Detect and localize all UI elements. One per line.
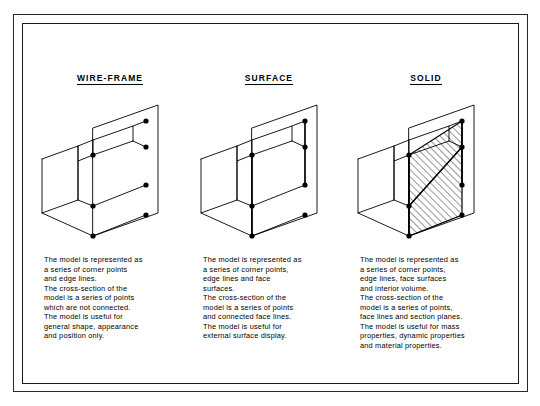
figure-caption-wire-frame: WIRE-FRAME <box>30 73 190 83</box>
block-notch-end <box>237 146 252 161</box>
block-bottom-edge <box>93 185 146 206</box>
section-face-lines <box>252 121 305 236</box>
figure-caption-label: SOLID <box>410 73 441 85</box>
block-left-end <box>201 146 237 213</box>
section-point <box>459 144 464 149</box>
block-left-face <box>201 159 252 236</box>
wire-frame-svg <box>30 85 190 250</box>
section-point <box>459 212 464 217</box>
block-top-slab <box>78 126 133 146</box>
figure-caption-surface: SURFACE <box>189 73 349 83</box>
section-point <box>302 182 307 187</box>
column-surface: SURFACE <box>189 23 349 384</box>
column-wire-frame: WIRE-FRAME <box>30 23 190 384</box>
block-notch-end <box>78 146 93 161</box>
section-point <box>459 182 464 187</box>
figure-solid <box>346 85 506 250</box>
section-point <box>90 233 95 238</box>
section-point <box>249 152 254 157</box>
drawing-content: WIRE-FRAME <box>22 23 519 384</box>
block-base-edge <box>93 215 146 236</box>
solid-svg <box>346 85 506 250</box>
section-point <box>406 203 411 208</box>
section-point <box>406 152 411 157</box>
figure-caption-label: SURFACE <box>245 73 293 85</box>
cutting-plane <box>252 105 317 236</box>
block-notch-top <box>93 141 133 155</box>
figure-description-surface: The model is represented as a series of … <box>203 255 353 341</box>
section-point <box>406 233 411 238</box>
section-point <box>143 212 148 217</box>
block-notch-top <box>252 141 292 155</box>
block-top-slab <box>237 126 292 146</box>
block-left-face <box>42 159 93 236</box>
block-left-end <box>358 146 394 213</box>
block-left-face <box>358 159 409 236</box>
cutting-plane <box>93 105 158 236</box>
section-point <box>143 182 148 187</box>
figure-caption-solid: SOLID <box>346 73 506 83</box>
section-point <box>302 212 307 217</box>
section-point <box>459 118 464 123</box>
drawing-sheet: WIRE-FRAME <box>0 0 540 406</box>
section-point <box>90 203 95 208</box>
figure-surface <box>189 85 349 250</box>
section-point <box>143 144 148 149</box>
surface-svg <box>189 85 349 250</box>
figure-caption-label: WIRE-FRAME <box>77 73 143 85</box>
block-notch-end <box>394 146 409 161</box>
section-points-group <box>249 118 307 238</box>
figure-description-wire-frame: The model is represented as a series of … <box>44 255 194 341</box>
block-base-edge <box>252 215 305 236</box>
section-points-group <box>90 118 148 238</box>
comparison-columns: WIRE-FRAME <box>22 23 519 384</box>
section-point <box>143 118 148 123</box>
figure-wire-frame <box>30 85 190 250</box>
section-point <box>249 233 254 238</box>
block-bottom-edge <box>252 185 305 206</box>
section-point <box>302 144 307 149</box>
section-point <box>302 118 307 123</box>
block-left-end <box>42 146 78 213</box>
section-point <box>249 203 254 208</box>
figure-description-solid: The model is represented as a series of … <box>360 255 516 350</box>
column-solid: SOLID <box>346 23 506 384</box>
section-point <box>90 152 95 157</box>
